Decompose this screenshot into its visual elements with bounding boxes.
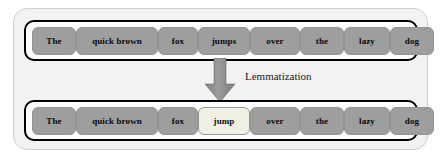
input-sentence-row: The quick brown fox jumps over the lazy … [24, 20, 418, 61]
token-chip: The [32, 107, 76, 135]
token-chip: The [32, 27, 76, 55]
output-sentence-row: The quick brown fox jump over the lazy d… [24, 100, 418, 141]
token-chip: dog [390, 107, 434, 135]
down-arrow-icon [204, 58, 236, 103]
token-chip: dog [390, 27, 434, 55]
token-chip: lazy [344, 107, 390, 135]
token-chip: fox [158, 107, 198, 135]
token-chip: the [300, 107, 344, 135]
token-chip: jumps [198, 27, 250, 55]
token-chip: the [300, 27, 344, 55]
token-chip: over [250, 27, 300, 55]
token-chip: lazy [344, 27, 390, 55]
transformation-label: Lemmatization [245, 70, 312, 82]
token-chip-lemma: jump [198, 107, 250, 135]
token-chip: over [250, 107, 300, 135]
token-chip: fox [158, 27, 198, 55]
token-chip: quick brown [76, 27, 158, 55]
token-chip: quick brown [76, 107, 158, 135]
lemmatization-diagram: The quick brown fox jumps over the lazy … [0, 0, 441, 159]
